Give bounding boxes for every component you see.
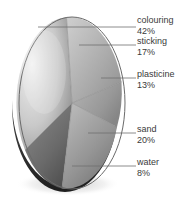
callout-sand-value: 20% — [137, 135, 157, 146]
callout-sticking: sticking 17% — [137, 36, 167, 57]
callout-colouring: colouring 42% — [137, 15, 174, 36]
pie-chart-figure: colouring 42% sticking 17% plasticine 13… — [0, 0, 186, 197]
callout-water: water 8% — [137, 157, 159, 178]
callout-plasticine: plasticine 13% — [137, 69, 175, 90]
pie-highlight — [22, 30, 66, 114]
callout-sticking-label: sticking — [137, 36, 167, 47]
callout-water-value: 8% — [137, 168, 159, 179]
callout-plasticine-label: plasticine — [137, 69, 175, 80]
callout-sticking-value: 17% — [137, 47, 167, 58]
callout-sand-label: sand — [137, 124, 157, 135]
callout-colouring-value: 42% — [137, 26, 174, 37]
callout-colouring-label: colouring — [137, 15, 174, 26]
callout-water-label: water — [137, 157, 159, 168]
callout-plasticine-value: 13% — [137, 80, 175, 91]
callout-sand: sand 20% — [137, 124, 157, 145]
